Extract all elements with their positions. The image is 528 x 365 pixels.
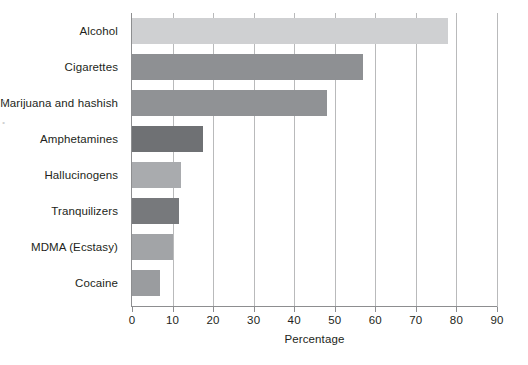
x-axis-tick xyxy=(132,307,133,312)
page-edge-artifact: • xyxy=(2,118,5,128)
category-label: Marijuana and hashish xyxy=(0,96,126,110)
x-axis-tick-label: 0 xyxy=(112,313,152,327)
x-axis-tick-label: 20 xyxy=(193,313,233,327)
plot-area xyxy=(132,13,497,307)
x-axis-tick-label: 70 xyxy=(396,313,436,327)
category-label: Cigarettes xyxy=(0,60,126,74)
page-edge-artifact: • xyxy=(2,96,5,106)
x-axis-tick xyxy=(375,307,376,312)
gridline xyxy=(416,13,417,307)
category-label: Tranquilizers xyxy=(0,204,126,218)
x-axis-tick-label: 80 xyxy=(436,313,476,327)
bar xyxy=(132,90,327,116)
bar xyxy=(132,54,363,80)
x-axis-tick xyxy=(335,307,336,312)
bar xyxy=(132,270,160,296)
x-axis-tick xyxy=(173,307,174,312)
bar xyxy=(132,198,179,224)
category-label: MDMA (Ecstasy) xyxy=(0,240,126,254)
x-axis-tick-label: 30 xyxy=(234,313,274,327)
bar xyxy=(132,126,203,152)
x-axis-tick xyxy=(294,307,295,312)
bar xyxy=(132,162,181,188)
x-axis-tick xyxy=(254,307,255,312)
bar xyxy=(132,18,448,44)
x-axis-title: Percentage xyxy=(132,332,497,346)
x-axis-tick-label: 40 xyxy=(274,313,314,327)
category-label: Amphetamines xyxy=(0,132,126,146)
x-axis-tick xyxy=(456,307,457,312)
x-axis-tick-label: 10 xyxy=(153,313,193,327)
gridline xyxy=(456,13,457,307)
bar-chart: 0102030405060708090 AlcoholCigarettesMar… xyxy=(0,0,528,365)
category-label: Cocaine xyxy=(0,276,126,290)
x-axis-tick xyxy=(213,307,214,312)
x-axis-line xyxy=(131,306,497,307)
y-axis-line xyxy=(131,13,132,307)
x-axis-tick xyxy=(416,307,417,312)
gridline xyxy=(497,13,498,307)
category-label: Hallucinogens xyxy=(0,168,126,182)
x-axis-tick-label: 90 xyxy=(477,313,517,327)
category-label: Alcohol xyxy=(0,24,126,38)
x-axis-tick-label: 60 xyxy=(355,313,395,327)
gridline xyxy=(375,13,376,307)
x-axis-tick xyxy=(497,307,498,312)
x-axis-tick-label: 50 xyxy=(315,313,355,327)
bar xyxy=(132,234,173,260)
